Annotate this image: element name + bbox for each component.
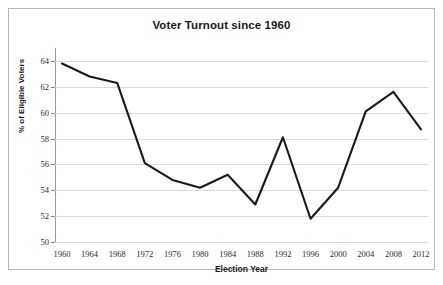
chart-card: Voter Turnout since 1960 % of Eligible V… (8, 8, 435, 270)
x-tick-label: 1968 (109, 249, 126, 259)
y-tick-mark (51, 242, 55, 243)
x-tick-label: 2012 (413, 249, 430, 259)
y-tick-label: 60 (41, 108, 50, 118)
y-tick-label: 64 (41, 56, 50, 66)
x-tick-label: 1984 (219, 249, 236, 259)
series-line-voter-turnout (55, 48, 428, 242)
x-tick-label: 1988 (247, 249, 264, 259)
y-tick-label: 58 (41, 134, 50, 144)
x-tick-label: 1960 (54, 249, 71, 259)
gridline (55, 242, 428, 243)
x-tick-label: 1992 (274, 249, 291, 259)
x-tick-label: 1976 (164, 249, 181, 259)
plot-area: 5052545658606264 19601964196819721976198… (55, 48, 428, 242)
x-tick-label: 1964 (81, 249, 98, 259)
y-axis-title: % of Eligible Voters (17, 59, 26, 133)
x-tick-label: 2004 (357, 249, 374, 259)
x-tick-label: 1996 (302, 249, 319, 259)
y-tick-label: 50 (41, 237, 50, 247)
x-tick-label: 2000 (330, 249, 347, 259)
chart-title: Voter Turnout since 1960 (9, 19, 434, 31)
x-axis-title: Election Year (55, 264, 428, 274)
x-tick-label: 1980 (192, 249, 209, 259)
x-tick-label: 2008 (385, 249, 402, 259)
y-tick-label: 56 (41, 159, 50, 169)
x-tick-label: 1972 (136, 249, 153, 259)
y-axis-title-container: % of Eligible Voters (21, 48, 35, 242)
y-tick-label: 52 (41, 211, 50, 221)
y-tick-label: 62 (41, 82, 50, 92)
y-tick-label: 54 (41, 185, 50, 195)
